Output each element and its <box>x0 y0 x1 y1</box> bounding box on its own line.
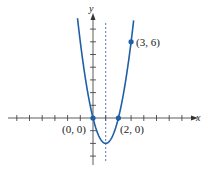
point-label-2-0: (2, 0) <box>120 124 144 135</box>
x-axis-label: x <box>196 113 200 123</box>
data-point <box>90 115 95 120</box>
data-point <box>129 39 134 44</box>
point-label-3-6: (3, 6) <box>136 37 160 48</box>
y-axis-label: y <box>89 4 93 14</box>
points <box>90 39 133 120</box>
graph-canvas <box>0 0 204 169</box>
data-point <box>116 115 121 120</box>
point-label-origin: (0, 0) <box>62 124 86 135</box>
